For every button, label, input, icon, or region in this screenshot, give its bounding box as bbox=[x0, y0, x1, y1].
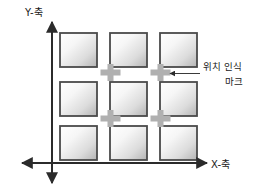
diagram-canvas: Y-축 X-축 위치 인식 마크 bbox=[0, 0, 264, 191]
grid-cell bbox=[160, 82, 197, 116]
grid-cell bbox=[160, 33, 197, 67]
grid-cell bbox=[60, 126, 97, 160]
grid-cell bbox=[60, 82, 97, 116]
grid-cell bbox=[110, 126, 147, 160]
y-axis-label: Y-축 bbox=[25, 4, 43, 19]
square-grid bbox=[60, 33, 197, 160]
callout-text-line-2: 마크 bbox=[203, 74, 264, 89]
position-mark-callout-label: 위치 인식 마크 bbox=[203, 59, 264, 89]
grid-cell bbox=[60, 33, 97, 67]
grid-cell bbox=[110, 82, 147, 116]
callout-text-line-1: 위치 인식 bbox=[203, 59, 264, 74]
x-axis-label: X-축 bbox=[211, 156, 231, 171]
grid-cell bbox=[160, 126, 197, 160]
grid-cell bbox=[110, 33, 147, 67]
